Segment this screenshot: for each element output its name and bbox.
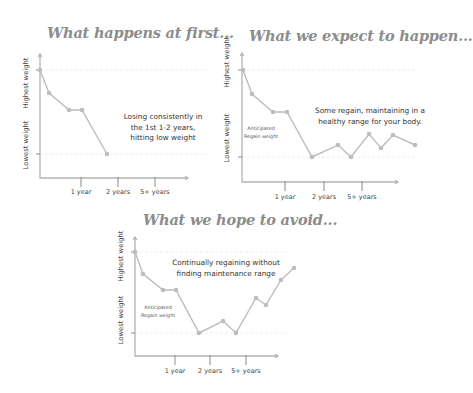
data-point bbox=[349, 155, 354, 160]
data-point bbox=[254, 296, 259, 301]
anticipated-regain-note: Regain weight bbox=[141, 313, 175, 318]
x-tick-label: 5+ years bbox=[347, 193, 377, 201]
data-point bbox=[161, 288, 166, 293]
annotation-text: finding maintenance range bbox=[177, 269, 276, 278]
x-tick-label: 5+ years bbox=[231, 367, 261, 375]
y-label-lowest: Lowest weight bbox=[223, 113, 231, 162]
y-label-highest: Highest weight bbox=[223, 36, 231, 87]
data-point bbox=[241, 68, 246, 73]
data-point bbox=[234, 331, 239, 336]
chart-3: 1 year2 years5+ yearsHighest weightLowes… bbox=[117, 230, 296, 375]
annotation-text: healthy range for your body. bbox=[318, 117, 422, 126]
annotation-text: Some regain, maintaining in a bbox=[315, 106, 425, 115]
chart-2: 1 year2 years5+ yearsHighest weightLowes… bbox=[223, 36, 425, 201]
data-point bbox=[367, 132, 372, 137]
x-tick-label: 5+ years bbox=[140, 188, 170, 196]
x-tick-label: 1 year bbox=[165, 367, 186, 375]
annotation-text: hitting low weight bbox=[130, 133, 195, 142]
data-point bbox=[80, 108, 85, 113]
annotation-text: Continually regaining without bbox=[172, 258, 280, 267]
chart-1: 1 year2 years5+ yearsHighest weightLowes… bbox=[22, 54, 207, 196]
data-point bbox=[292, 266, 297, 271]
data-point bbox=[67, 108, 72, 113]
data-point bbox=[38, 68, 43, 73]
y-label-highest: Highest weight bbox=[117, 230, 125, 281]
data-point bbox=[285, 110, 290, 115]
data-point bbox=[413, 143, 418, 148]
annotation-text: the 1st 1-2 years, bbox=[131, 123, 196, 132]
data-point bbox=[279, 278, 284, 283]
data-point bbox=[310, 155, 315, 160]
data-point bbox=[105, 152, 110, 157]
y-label-lowest: Lowest weight bbox=[22, 120, 30, 169]
anticipated-regain-note: Anticipated bbox=[247, 126, 274, 131]
data-point bbox=[391, 133, 396, 138]
x-tick-label: 1 year bbox=[275, 193, 296, 201]
weight-line bbox=[40, 70, 107, 154]
data-point bbox=[221, 319, 226, 324]
x-tick-label: 2 years bbox=[198, 367, 223, 375]
data-point bbox=[141, 272, 146, 277]
data-point bbox=[47, 91, 52, 96]
data-point bbox=[174, 288, 179, 293]
data-point bbox=[133, 250, 138, 255]
data-point bbox=[271, 110, 276, 115]
y-label-lowest: Lowest weight bbox=[117, 295, 125, 344]
data-point bbox=[197, 331, 202, 336]
anticipated-regain-note: Anticipated bbox=[144, 305, 171, 310]
x-tick-label: 1 year bbox=[71, 188, 92, 196]
data-point bbox=[379, 146, 384, 151]
data-point bbox=[336, 143, 341, 148]
data-point bbox=[250, 92, 255, 97]
data-point bbox=[264, 303, 269, 308]
annotation-text: Losing consistently in bbox=[124, 112, 203, 121]
y-label-highest: Highest weight bbox=[22, 57, 30, 108]
x-tick-label: 2 years bbox=[106, 188, 131, 196]
x-tick-label: 2 years bbox=[312, 193, 337, 201]
anticipated-regain-note: Regain weight bbox=[244, 134, 278, 139]
